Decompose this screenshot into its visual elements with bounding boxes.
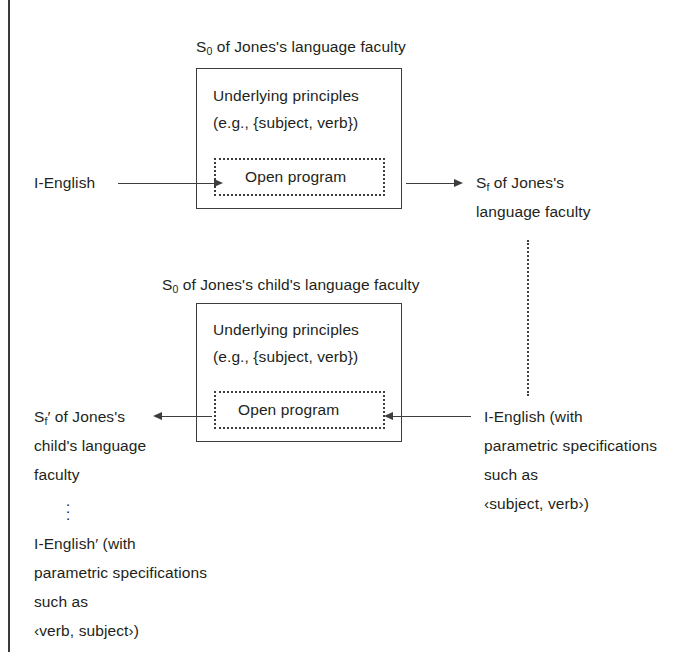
top-box-caption: S0 of Jones's language faculty: [196, 34, 406, 64]
output-right-top-arrow-line: [406, 183, 456, 184]
bottom-box-caption: S0 of Jones's child's language faculty: [162, 272, 420, 302]
derived-bottom-left-line4: ‹verb, subject›): [34, 618, 139, 644]
input-right-bottom-line1: I-English (with: [484, 404, 583, 430]
top-open-program-label: Open program: [245, 164, 346, 190]
input-right-bottom-arrow-line: [393, 416, 471, 417]
output-right-top-rest: of Jones's: [489, 174, 564, 191]
top-box-caption-s: S: [196, 38, 206, 55]
output-left-bottom-line2: child's language: [34, 433, 146, 459]
input-left-top-arrowhead-icon: [214, 179, 223, 187]
output-left-bottom-line1: Sf′ of Jones's: [34, 404, 125, 434]
output-left-bottom-arrowhead-icon: [153, 412, 162, 420]
derived-bottom-left-line2: parametric specifications: [34, 560, 207, 586]
derivation-ellipsis: · · ·: [62, 500, 74, 521]
bottom-open-program-label: Open program: [238, 397, 339, 423]
figure-canvas: S0 of Jones's language faculty Underlyin…: [0, 0, 698, 652]
output-right-top-line2: language faculty: [476, 199, 591, 225]
ellipsis-dot-3: ·: [62, 514, 74, 521]
derived-bottom-left-line1: I-English′ (with: [34, 531, 136, 557]
output-right-top-s: S: [476, 174, 486, 191]
output-right-top-arrowhead-icon: [454, 179, 463, 187]
bottom-box-caption-rest: of Jones's child's language faculty: [178, 276, 419, 293]
output-left-bottom-line3: faculty: [34, 462, 80, 488]
bottom-box-line1: Underlying principles: [213, 317, 359, 343]
input-left-top-label: I-English: [34, 170, 95, 196]
output-left-bottom-arrow-line: [162, 416, 212, 417]
bottom-box-caption-s: S: [162, 276, 172, 293]
top-box-caption-rest: of Jones's language faculty: [212, 38, 406, 55]
generation-link-dotted-line: [527, 240, 529, 396]
bottom-box-line2: (e.g., {subject, verb}): [213, 344, 358, 370]
input-right-bottom-arrowhead-icon: [384, 412, 393, 420]
derived-bottom-left-line3: such as: [34, 589, 88, 615]
output-left-bottom-s: S: [34, 408, 44, 425]
left-page-rule: [8, 0, 10, 652]
input-left-top-arrow-line: [118, 183, 216, 184]
output-left-bottom-rest: of Jones's: [50, 408, 125, 425]
top-box-line1: Underlying principles: [213, 83, 359, 109]
input-right-bottom-line3: such as: [484, 462, 538, 488]
input-right-bottom-line4: ‹subject, verb›): [484, 491, 589, 517]
output-right-top-line1: Sf of Jones's: [476, 170, 564, 200]
input-right-bottom-line2: parametric specifications: [484, 433, 657, 459]
top-box-line2: (e.g., {subject, verb}): [213, 110, 358, 136]
